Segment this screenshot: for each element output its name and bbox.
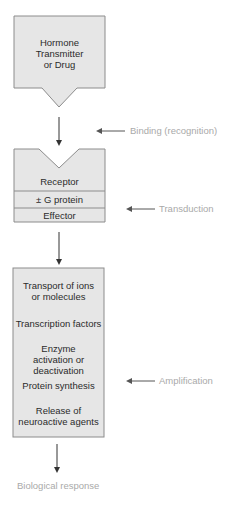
ligand-box: Hormone Transmitter or Drug [14,37,105,70]
biological-response-label: Biological response [17,480,99,491]
effector-section: Effector [14,210,105,221]
ligand-line: or Drug [14,59,105,70]
receptor-section: Receptor [14,176,105,187]
effect-item: Transport of ions or molecules [22,280,95,302]
effect-item: Transcription factors [14,318,103,329]
ligand-line: Hormone [14,37,105,48]
effect-item: Release of neuroactive agents [18,405,99,427]
amplification-label: Amplification [159,375,213,386]
g-protein-section: ± G protein [14,194,105,205]
ligand-line: Transmitter [14,48,105,59]
transduction-label: Transduction [159,203,214,214]
effect-item: Protein synthesis [14,380,103,391]
diagram-shapes [0,0,225,505]
effect-item: Enzyme activation or deactivation [20,343,97,376]
binding-label: Binding (recognition) [130,125,217,136]
